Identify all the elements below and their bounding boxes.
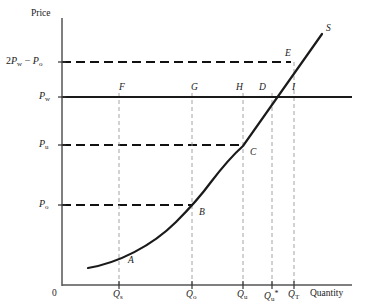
quantity-sub: u (244, 293, 248, 301)
quantity-sub: o (193, 293, 197, 301)
price-label-po: Po (39, 199, 49, 211)
price-minus-operator: − (22, 55, 33, 66)
point-label-b: B (199, 208, 205, 218)
quantity-base: Q (237, 289, 244, 299)
quantity-sub: T (295, 293, 299, 301)
price-label-pu: Pu (39, 139, 49, 151)
quantity-sub: s (120, 293, 123, 301)
quantity-label-qo: Qo (186, 290, 196, 301)
point-label-i: I (292, 83, 295, 93)
point-label-f: F (119, 83, 125, 93)
price-sub-o: o (45, 203, 49, 211)
point-label-d: D (259, 83, 266, 93)
price-sub-o: o (39, 60, 43, 68)
price-label-pw: Pw (39, 91, 50, 103)
quantity-label-qu-star: Qu* (264, 290, 278, 303)
quantity-base: Q (186, 289, 193, 299)
point-dot-h (242, 96, 244, 98)
price-sub-w: w (45, 95, 50, 103)
point-dot-g (191, 96, 193, 98)
quantity-base: Q (288, 289, 295, 299)
quantity-label-qt: QT (288, 290, 299, 301)
point-label-h: H (236, 83, 243, 93)
point-dot-i (293, 96, 295, 98)
figure-canvas (0, 0, 369, 308)
supply-curve-s (88, 34, 322, 268)
price-sub-u: u (45, 143, 49, 151)
quantity-base: Q (264, 291, 271, 301)
point-label-g: G (191, 83, 198, 93)
quantity-base: Q (113, 289, 120, 299)
curve-label-s: S (326, 24, 331, 34)
point-label-e: E (285, 49, 291, 59)
y-axis-title: Price (31, 9, 51, 19)
price-label-2pw-minus-po: 2Pw − Po (6, 56, 42, 68)
point-dot-f (118, 96, 120, 98)
quantity-star: * (274, 289, 278, 298)
quantity-label-qu: Qu (237, 290, 247, 301)
x-axis-title: Quantity (310, 289, 343, 299)
quantity-label-qs: Qs (113, 290, 123, 301)
point-label-a: A (128, 256, 134, 266)
supply-curve-figure: Price Quantity 0 2Pw − Po Pw Pu Po Qs Qo… (0, 0, 369, 308)
origin-label: 0 (52, 289, 57, 299)
point-label-c: C (250, 148, 256, 158)
point-dot-d (263, 96, 265, 98)
